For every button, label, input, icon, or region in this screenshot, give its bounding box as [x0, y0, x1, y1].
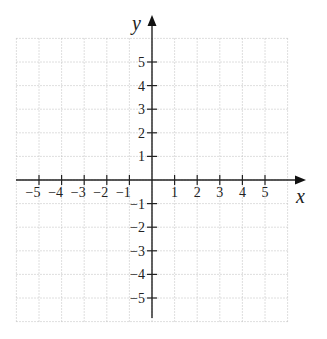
- y-tick-label: −5: [130, 291, 145, 306]
- x-tick-label: −3: [71, 185, 86, 200]
- y-tick-label: 2: [138, 126, 145, 141]
- y-tick-label: 4: [138, 79, 145, 94]
- x-tick-label: −2: [93, 185, 108, 200]
- x-tick-label: 1: [171, 185, 178, 200]
- x-axis-arrow-icon: [295, 176, 306, 185]
- coordinate-plane: −5−4−3−2−11234554321−1−2−3−4−5 x y: [0, 0, 327, 339]
- y-tick-label: −2: [130, 220, 145, 235]
- x-tick-label: 3: [216, 185, 223, 200]
- axes: [16, 15, 306, 318]
- x-tick-label: −1: [116, 185, 131, 200]
- y-tick-label: 3: [138, 102, 145, 117]
- y-axis-arrow-icon: [148, 15, 157, 26]
- y-tick-label: −4: [130, 267, 145, 282]
- x-tick-label: −4: [48, 185, 63, 200]
- y-axis-label: y: [130, 12, 141, 35]
- x-tick-label: 2: [194, 185, 201, 200]
- y-tick-label: 1: [138, 149, 145, 164]
- x-axis-label: x: [295, 185, 305, 207]
- y-tick-label: −3: [130, 244, 145, 259]
- x-tick-label: 4: [239, 185, 246, 200]
- y-tick-label: 5: [138, 55, 145, 70]
- x-tick-label: 5: [262, 185, 269, 200]
- y-tick-label: −1: [130, 197, 145, 212]
- x-tick-label: −5: [26, 185, 41, 200]
